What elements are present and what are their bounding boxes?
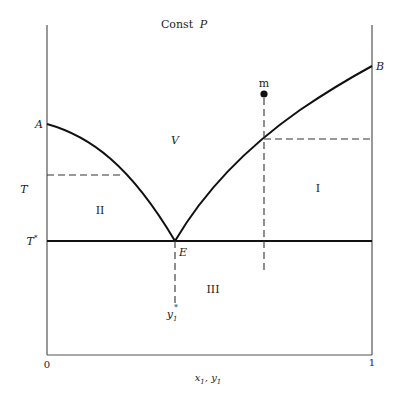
point-a-label: A bbox=[34, 118, 43, 131]
t-star-label: T* bbox=[27, 234, 38, 248]
eutectic-composition-star: * bbox=[174, 303, 178, 312]
region-v-label: V bbox=[171, 134, 180, 147]
point-m-label: m bbox=[259, 77, 270, 90]
liquidus-curve-right bbox=[175, 66, 372, 241]
x-tick-0: 0 bbox=[44, 359, 50, 370]
region-ii-label: II bbox=[96, 204, 105, 217]
region-i-label: I bbox=[316, 182, 320, 195]
diagram-title: Const P bbox=[161, 18, 208, 31]
point-b-label: B bbox=[375, 60, 384, 73]
point-m-marker bbox=[260, 90, 267, 97]
region-iii-label: III bbox=[206, 283, 219, 296]
x-tick-1: 1 bbox=[369, 357, 375, 368]
x-axis-label: x1, y1 bbox=[195, 372, 222, 386]
liquidus-curve-left bbox=[47, 124, 175, 241]
phase-diagram: Const P A B E m V I II III T T* y1 * 0 1… bbox=[0, 0, 401, 399]
point-e-label: E bbox=[178, 246, 187, 259]
y-axis-label: T bbox=[20, 183, 29, 196]
